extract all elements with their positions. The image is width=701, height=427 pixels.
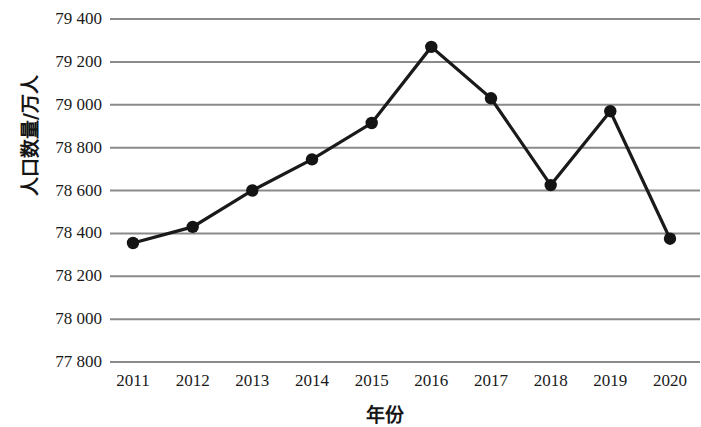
data-point	[425, 41, 437, 53]
data-point	[306, 153, 318, 165]
data-point	[187, 221, 199, 233]
data-point	[664, 233, 676, 245]
data-point	[246, 184, 258, 196]
data-point	[366, 117, 378, 129]
data-point	[604, 105, 616, 117]
population-line-chart: 人口数量/万人 年份 79 40079 20079 00078 80078 60…	[0, 0, 701, 427]
data-point	[127, 237, 139, 249]
gridlines	[110, 19, 700, 362]
plot-area	[0, 0, 701, 427]
data-point	[485, 92, 497, 104]
data-line	[133, 47, 670, 243]
data-point	[545, 179, 557, 191]
